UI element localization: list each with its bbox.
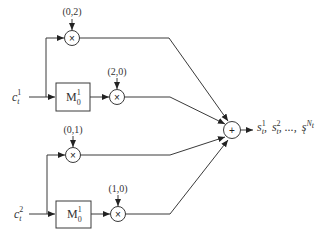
multiply-symbol: × — [70, 150, 76, 161]
multiply-symbol: × — [115, 209, 121, 220]
coef-label-2-0: (2,0) — [107, 66, 126, 78]
multiply-symbol: × — [69, 33, 75, 44]
edge-mult-0-2-to-sum — [80, 38, 229, 121]
edge-mult-0-1-to-sum — [81, 137, 226, 155]
plus-symbol: + — [229, 125, 235, 136]
multiply-symbol: × — [114, 92, 120, 103]
input-label-c1: c1t — [12, 88, 21, 106]
coef-label-0-1: (0,1) — [63, 124, 82, 136]
coef-label-1-0: (1,0) — [108, 183, 127, 195]
output-label: s1t, s2t, ..., sNtt — [257, 117, 315, 136]
input-label-c2: c2t — [14, 205, 23, 223]
input-group-2: c2t M10 (0,1) × (1,0) × — [14, 124, 128, 228]
coef-label-0-2: (0,2) — [62, 6, 81, 18]
edge-mult-1-0-to-sum — [126, 140, 229, 214]
input-group-1: c1t M10 (0,2) × (2,0) × — [12, 6, 127, 111]
block-diagram: c1t M10 (0,2) × (2,0) × c2t M10 (0,1) — [0, 0, 332, 237]
edge-mult-2-0-to-sum — [125, 97, 226, 124]
